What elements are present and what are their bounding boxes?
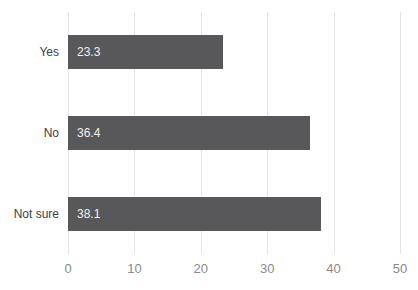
gridline-40 [334,12,335,254]
category-label-yes: Yes [0,44,59,60]
x-tick-label-0: 0 [64,261,71,276]
category-label-no: No [0,125,59,141]
gridline-50 [400,12,401,254]
x-tick-label-50: 50 [393,261,407,276]
bar-no: 36.4 [68,116,310,150]
bar-value-label-yes: 23.3 [68,45,100,59]
x-tick-label-40: 40 [326,261,340,276]
plot-area: 23.336.438.1 [68,12,400,254]
x-tick-label-30: 30 [260,261,274,276]
bar-value-label-no: 36.4 [68,126,100,140]
bar-value-label-not-sure: 38.1 [68,207,100,221]
x-tick-label-10: 10 [127,261,141,276]
bar-chart: 23.336.438.1 01020304050YesNoNot sure [0,0,418,290]
bar-yes: 23.3 [68,35,223,69]
bar-not-sure: 38.1 [68,197,321,231]
x-tick-label-20: 20 [194,261,208,276]
category-label-not-sure: Not sure [0,206,59,222]
